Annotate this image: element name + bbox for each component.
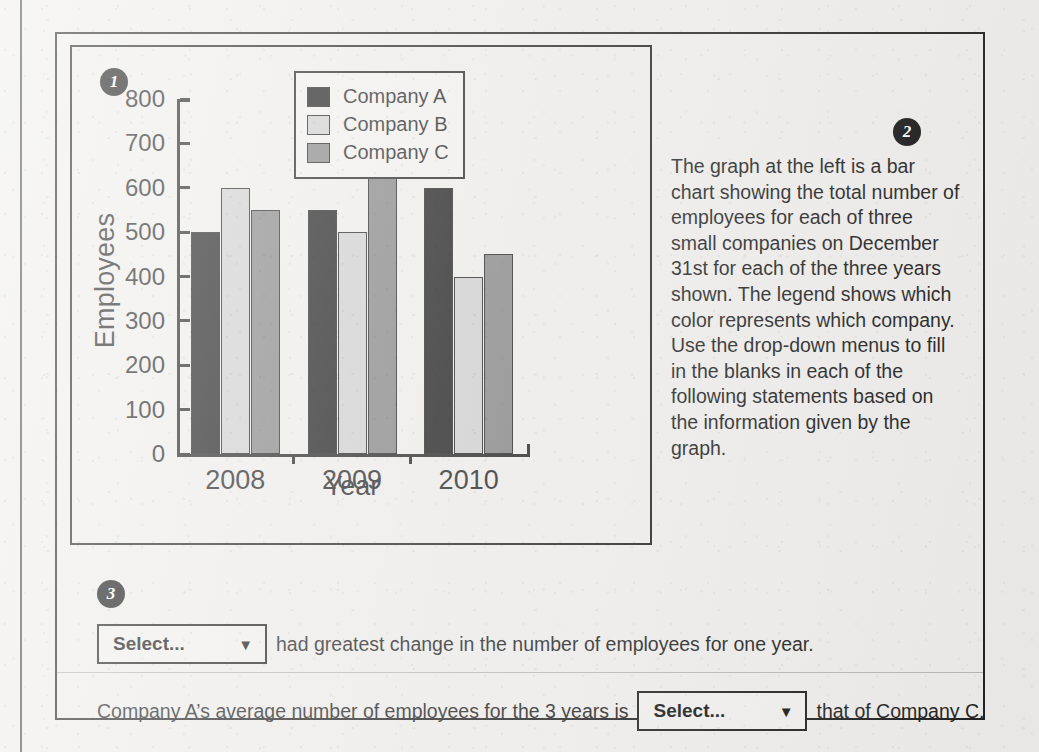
- legend-label-company-b: Company B: [343, 112, 448, 137]
- legend-swatch-company-a: [307, 87, 330, 107]
- y-axis-tick: [180, 408, 190, 411]
- question-frame: 1 Employees 8007006005004003002001000200…: [55, 32, 985, 720]
- legend-swatch-company-b: [307, 115, 330, 135]
- callout-badge-2: 2: [893, 118, 921, 146]
- y-axis-tick: [180, 364, 190, 367]
- top-area: 1 Employees 8007006005004003002001000200…: [57, 34, 987, 557]
- chart-legend: Company A Company B Company C: [294, 71, 465, 179]
- bar-company-a-2010: [424, 188, 453, 454]
- chevron-down-icon: ▼: [238, 637, 253, 652]
- y-axis-tick: [180, 275, 190, 278]
- legend-item: Company A: [307, 84, 449, 109]
- y-axis-tick: [180, 142, 190, 145]
- x-axis-line: [177, 454, 527, 457]
- page-margin-rule: [20, 0, 22, 752]
- statement-2-select[interactable]: Select... ▼: [637, 691, 807, 731]
- callout-badge-1: 1: [100, 68, 128, 96]
- x-axis-label: Year: [177, 471, 527, 502]
- y-axis-tick: [180, 453, 190, 456]
- legend-label-company-a: Company A: [343, 84, 446, 109]
- statement-row-2: Company A’s average number of employees …: [57, 684, 987, 738]
- y-axis-tick-label: 500: [85, 220, 165, 244]
- chart-panel: 1 Employees 8007006005004003002001000200…: [70, 45, 652, 545]
- bar-company-c-2008: [251, 210, 280, 454]
- statement-1-text: had greatest change in the number of emp…: [276, 633, 814, 656]
- y-axis-tick-label: 600: [85, 176, 165, 200]
- statement-2-text-before: Company A’s average number of employees …: [97, 700, 628, 723]
- y-axis-tick: [180, 231, 190, 234]
- y-axis-tick-label: 300: [85, 309, 165, 333]
- y-axis-tick-label: 0: [85, 442, 165, 466]
- bar-company-b-2009: [338, 232, 367, 454]
- chevron-down-icon: ▼: [779, 704, 794, 719]
- instructions-paragraph: The graph at the left is a bar chart sho…: [671, 154, 963, 461]
- statement-2-text-after: that of Company C.: [816, 700, 984, 723]
- bar-company-c-2010: [484, 254, 513, 454]
- y-axis-tick-label: 100: [85, 398, 165, 422]
- callout-badge-3: 3: [97, 580, 125, 608]
- legend-swatch-company-c: [307, 143, 330, 163]
- x-axis-tick: [292, 456, 295, 464]
- statement-row-1: Select... ▼ had greatest change in the n…: [57, 617, 987, 671]
- legend-item: Company C: [307, 140, 449, 165]
- x-axis-right-cap: [527, 444, 530, 457]
- legend-item: Company B: [307, 112, 449, 137]
- y-axis-tick-label: 200: [85, 353, 165, 377]
- statement-1-select-value: Select...: [113, 633, 185, 655]
- statement-divider: [57, 672, 983, 673]
- statement-1-select[interactable]: Select... ▼: [97, 624, 267, 664]
- bar-company-a-2008: [191, 232, 220, 454]
- statement-2-select-value: Select...: [653, 700, 725, 722]
- bar-company-a-2009: [308, 210, 337, 454]
- y-axis-tick-label: 400: [85, 265, 165, 289]
- bar-company-c-2009: [368, 166, 397, 454]
- y-axis-tick: [180, 186, 190, 189]
- y-axis-tick: [180, 319, 190, 322]
- y-axis-tick-label: 700: [85, 131, 165, 155]
- bar-company-b-2010: [454, 277, 483, 455]
- bar-company-b-2008: [221, 188, 250, 454]
- x-axis-tick: [409, 456, 412, 464]
- bar-chart: Employees 800700600500400300200100020082…: [72, 47, 650, 543]
- y-axis-tick: [180, 98, 190, 101]
- legend-label-company-c: Company C: [343, 140, 449, 165]
